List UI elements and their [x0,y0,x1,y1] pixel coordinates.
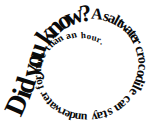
spiral-text-canvas: Didyouknow?Asaltwatercrocodilecanstayund… [0,0,162,139]
spiral-letter: h [81,30,87,40]
spiral-text-figure: Didyouknow?Asaltwatercrocodilecanstayund… [0,0,162,139]
